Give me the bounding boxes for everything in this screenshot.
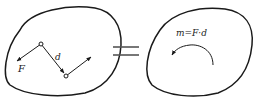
force-f-arrow bbox=[17, 44, 41, 61]
distance-label: d bbox=[55, 52, 61, 62]
force-opposite-arrow bbox=[66, 57, 91, 76]
point-a bbox=[39, 42, 43, 46]
right-body bbox=[147, 8, 252, 96]
point-b bbox=[64, 74, 68, 78]
equals-sign bbox=[113, 47, 139, 55]
force-label: F bbox=[17, 63, 26, 74]
force-couple-diagram: F d m=F·d bbox=[0, 0, 257, 99]
moment-label: m=F·d bbox=[176, 28, 207, 38]
moment-arc-icon bbox=[172, 45, 213, 65]
left-body bbox=[5, 7, 121, 96]
